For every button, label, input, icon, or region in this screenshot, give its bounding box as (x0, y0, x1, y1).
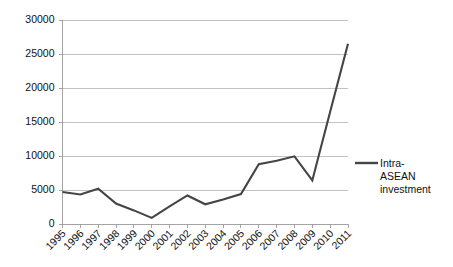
y-axis-tick-label: 20000 (25, 81, 54, 93)
y-axis-tick-label: 0 (49, 217, 55, 229)
chart-canvas: 050001000015000200002500030000 199519961… (0, 0, 453, 267)
y-axis-tick-label: 30000 (25, 13, 54, 25)
chart-background (0, 0, 453, 267)
y-axis-tick-label: 15000 (25, 115, 54, 127)
line-chart: 050001000015000200002500030000 199519961… (0, 0, 453, 267)
y-axis-tick-label: 5000 (31, 183, 55, 195)
legend-label-line3: investment (380, 183, 431, 195)
y-axis-tick-label: 25000 (25, 47, 54, 59)
y-axis-tick-label: 10000 (25, 149, 54, 161)
legend-label-line1: Intra- (380, 157, 405, 169)
legend-label-line2: ASEAN (380, 170, 416, 182)
